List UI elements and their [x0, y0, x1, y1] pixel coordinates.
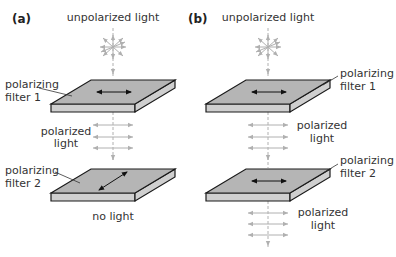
unpolarized-light-label: unpolarized light — [67, 11, 160, 24]
polarizing-filter-1 — [206, 80, 330, 112]
filter-1-label: polarizing — [340, 67, 394, 80]
filter-2-label: filter 2 — [340, 167, 376, 180]
panel-b-label: (b) — [188, 12, 208, 26]
filter-2-label: polarizing — [5, 164, 59, 177]
polarized-light-label: light — [54, 137, 79, 150]
panel-a: (a) unpolarized light polarizing filter … — [5, 11, 175, 223]
unpolarized-light-star-icon — [100, 35, 126, 59]
panel-a-label: (a) — [12, 12, 31, 26]
unpolarized-light-label: unpolarized light — [222, 11, 315, 24]
filter-1-label: filter 1 — [340, 80, 376, 93]
polarization-diagram: (a) unpolarized light polarizing filter … — [0, 0, 396, 257]
polarized-light-label: light — [311, 219, 336, 232]
no-light-label: no light — [92, 210, 134, 223]
filter-1-label: polarizing — [5, 78, 59, 91]
polarizing-filter-2 — [51, 169, 175, 201]
filter-2-label: filter 2 — [5, 177, 41, 190]
polarized-light-label: polarized — [298, 206, 349, 219]
unpolarized-light-star-icon — [255, 35, 281, 59]
panel-b: (b) unpolarized light polarizing filter … — [188, 11, 394, 247]
polarizing-filter-2 — [206, 169, 330, 201]
polarized-light-label: light — [310, 132, 335, 145]
polarizing-filter-1 — [51, 80, 175, 112]
filter-1-label: filter 1 — [5, 91, 41, 104]
polarized-light-label: polarized — [297, 119, 348, 132]
filter-2-label: polarizing — [340, 154, 394, 167]
